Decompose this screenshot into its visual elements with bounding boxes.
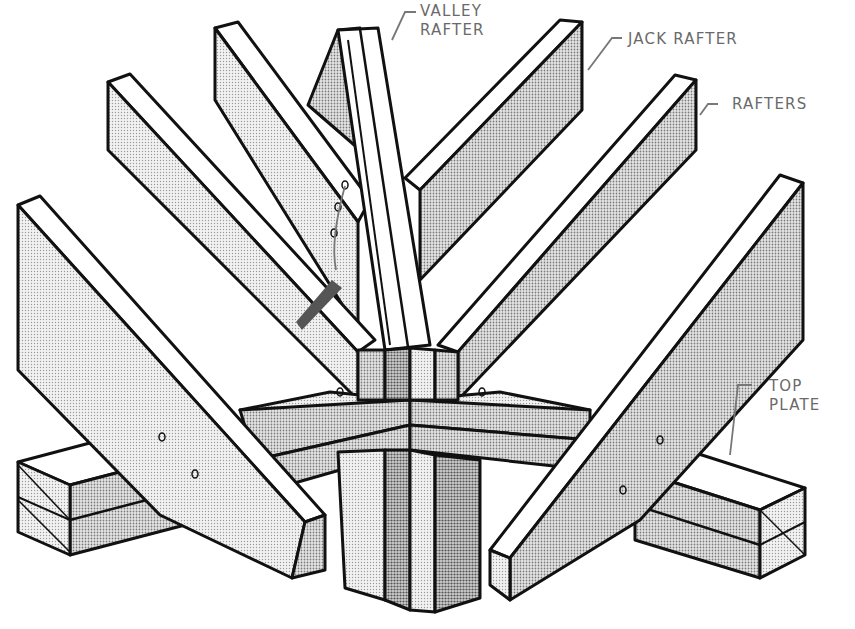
- label-top-plate: TOPPLATE: [769, 377, 820, 415]
- label-rafters: RAFTERS: [732, 95, 807, 114]
- roof-framing-diagram: [0, 0, 855, 629]
- label-valley-rafter: VALLEYRAFTER: [420, 2, 485, 40]
- corner-post: [338, 348, 480, 612]
- label-jack-rafter: JACK RAFTER: [628, 30, 738, 49]
